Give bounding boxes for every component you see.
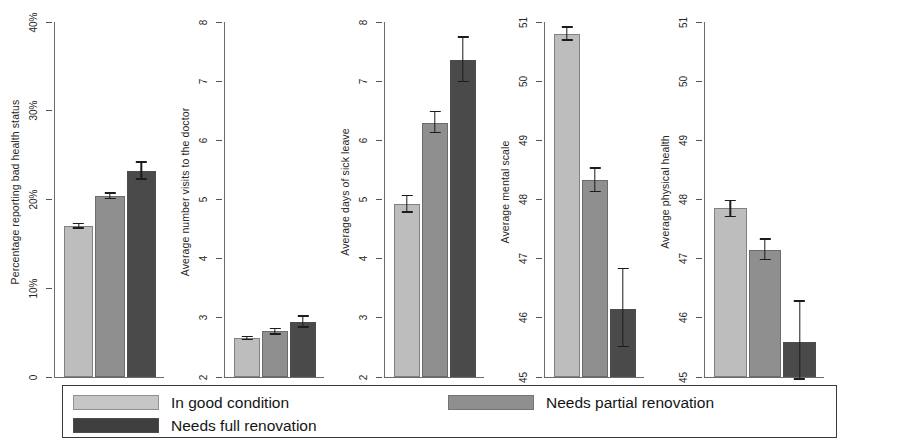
panel-sick-leave-ytick: 2 (352, 371, 382, 383)
panel-mental-scale-ytick: 45 (512, 371, 542, 383)
panel-mental-scale-ytick-mark (536, 317, 542, 318)
panel-mental-scale-ytick-label: 50 (518, 70, 529, 92)
panel-mental-scale-plot-area (544, 6, 644, 378)
legend-row-2: Needs full renovation (73, 414, 826, 437)
bar-needs-partial-renovation (582, 180, 608, 377)
panel-physical-health-ytick-label: 46 (678, 307, 689, 329)
bar-in-good-condition (714, 208, 747, 377)
bar-in-good-condition (394, 204, 420, 377)
panel-doctor-visits-ytick: 7 (192, 75, 222, 87)
bar-group (554, 6, 580, 377)
legend-item-needs-partial-renovation: Needs partial renovation (448, 394, 714, 412)
panel-physical-health-ytick-mark (696, 317, 702, 318)
panel-bad-health-y-axis-line (54, 22, 55, 378)
panel-physical-health-ytick: 51 (672, 16, 702, 28)
legend-swatch-needs-full-renovation (73, 418, 159, 433)
panel-bad-health-ytick: 40% (22, 16, 52, 28)
panel-physical-health-ytick: 46 (672, 312, 702, 324)
panel-doctor-visits-ytick-mark (216, 81, 222, 82)
bar-group (127, 6, 156, 377)
panel-doctor-visits-ytick-label: 5 (198, 189, 209, 211)
panel-sick-leave-ylabel-text: Average days of sick leave (339, 128, 351, 255)
panel-sick-leave-plot-area (384, 6, 484, 378)
panel-mental-scale-ytick-label: 49 (518, 129, 529, 151)
panel-sick-leave-ytick-mark (376, 199, 382, 200)
bar-group (290, 6, 316, 377)
legend-label-needs-partial-renovation: Needs partial renovation (546, 394, 714, 412)
panel-doctor-visits-ytick: 2 (192, 371, 222, 383)
panel-physical-health-x-axis-line (704, 377, 824, 378)
bar-group (582, 6, 608, 377)
panel-doctor-visits-bars (234, 6, 316, 377)
bar-group (714, 6, 747, 377)
panel-physical-health-ytick-label: 48 (678, 189, 689, 211)
panel-bad-health: Percentage reporting bad health status01… (0, 6, 170, 378)
panel-physical-health-y-axis-line (704, 22, 705, 378)
bar-needs-full-renovation (290, 322, 316, 377)
panel-sick-leave-ytick-mark (376, 377, 382, 378)
panel-doctor-visits-plot-area (224, 6, 324, 378)
legend-swatch-in-good-condition (73, 395, 159, 410)
panel-sick-leave: Average days of sick leave2345678 (330, 6, 490, 378)
panel-sick-leave-ytick: 5 (352, 194, 382, 206)
panel-bad-health-ytick: 0 (22, 371, 52, 383)
error-bar (462, 36, 463, 82)
panel-mental-scale-ytick-label: 46 (518, 307, 529, 329)
panel-mental-scale-ytick-mark (536, 199, 542, 200)
panel-doctor-visits-ytick: 3 (192, 312, 222, 324)
panel-bad-health-ytick-mark (46, 288, 52, 289)
bar-needs-partial-renovation (422, 123, 448, 377)
panel-doctor-visits-ytick-label: 4 (198, 248, 209, 270)
panel-mental-scale-ytick: 47 (512, 253, 542, 265)
panel-bad-health-ytick: 10% (22, 282, 52, 294)
panel-doctor-visits-x-axis-line (224, 377, 324, 378)
panel-mental-scale-bars (554, 6, 636, 377)
error-bar (274, 328, 275, 335)
panel-bad-health-ytick-label: 20% (28, 189, 39, 211)
panel-physical-health-ytick-mark (696, 377, 702, 378)
legend-item-in-good-condition: In good condition (73, 394, 448, 412)
panel-mental-scale-x-axis-line (544, 377, 644, 378)
bar-group (422, 6, 448, 377)
bar-in-good-condition (64, 226, 93, 377)
panel-sick-leave-ytick-mark (376, 258, 382, 259)
panel-sick-leave-yaxis-ticks: 2345678 (352, 6, 382, 378)
panel-bad-health-ytick-label: 0 (28, 366, 39, 388)
panel-physical-health-ytick-label: 50 (678, 70, 689, 92)
panel-mental-scale-y-axis-line (544, 22, 545, 378)
panel-sick-leave-ytick-label: 5 (358, 189, 369, 211)
panel-mental-scale-ylabel-text: Average mental scale (499, 141, 511, 244)
bar-needs-full-renovation (450, 60, 476, 377)
panel-physical-health-plot-area (704, 6, 824, 378)
bar-in-good-condition (234, 338, 260, 377)
error-bar (764, 238, 765, 260)
panel-doctor-visits-ytick-mark (216, 377, 222, 378)
panel-mental-scale-ytick: 49 (512, 134, 542, 146)
panel-physical-health-ytick: 49 (672, 134, 702, 146)
panel-sick-leave-ytick-label: 7 (358, 70, 369, 92)
panel-physical-health-ytick-mark (696, 199, 702, 200)
panel-sick-leave-ytick: 3 (352, 312, 382, 324)
panel-sick-leave-ytick-mark (376, 81, 382, 82)
panel-sick-leave-ytick: 7 (352, 75, 382, 87)
panel-doctor-visits-ytick-mark (216, 22, 222, 23)
panel-mental-scale-ytick: 46 (512, 312, 542, 324)
panel-mental-scale-ytick: 48 (512, 194, 542, 206)
panel-doctor-visits-ytick-label: 6 (198, 129, 209, 151)
error-bar (434, 111, 435, 133)
bar-group (394, 6, 420, 377)
panel-physical-health-ytick: 45 (672, 371, 702, 383)
panel-sick-leave-ytick: 8 (352, 16, 382, 28)
panel-doctor-visits-ytick-mark (216, 317, 222, 318)
error-bar (141, 161, 142, 180)
panel-sick-leave-ytick: 6 (352, 134, 382, 146)
panel-sick-leave-ytick-mark (376, 140, 382, 141)
panel-doctor-visits-y-axis-line (224, 22, 225, 378)
bar-needs-partial-renovation (95, 196, 124, 377)
chart-legend: In good condition Needs partial renovati… (62, 385, 837, 438)
error-bar (406, 195, 407, 213)
panel-bad-health-ytick-mark (46, 110, 52, 111)
bar-in-good-condition (554, 34, 580, 377)
panel-doctor-visits-ytick-label: 3 (198, 307, 209, 329)
panel-physical-health: Average physical health45464748495051 (650, 6, 830, 378)
